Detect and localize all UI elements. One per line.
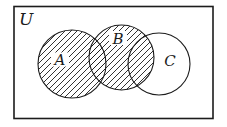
label-a: A	[53, 51, 66, 69]
universe-label: U	[19, 9, 34, 29]
label-b: B	[111, 30, 123, 48]
label-c: C	[164, 52, 176, 70]
venn-diagram-svg: U A B C	[0, 0, 227, 127]
venn-diagram: U A B C	[0, 0, 227, 127]
